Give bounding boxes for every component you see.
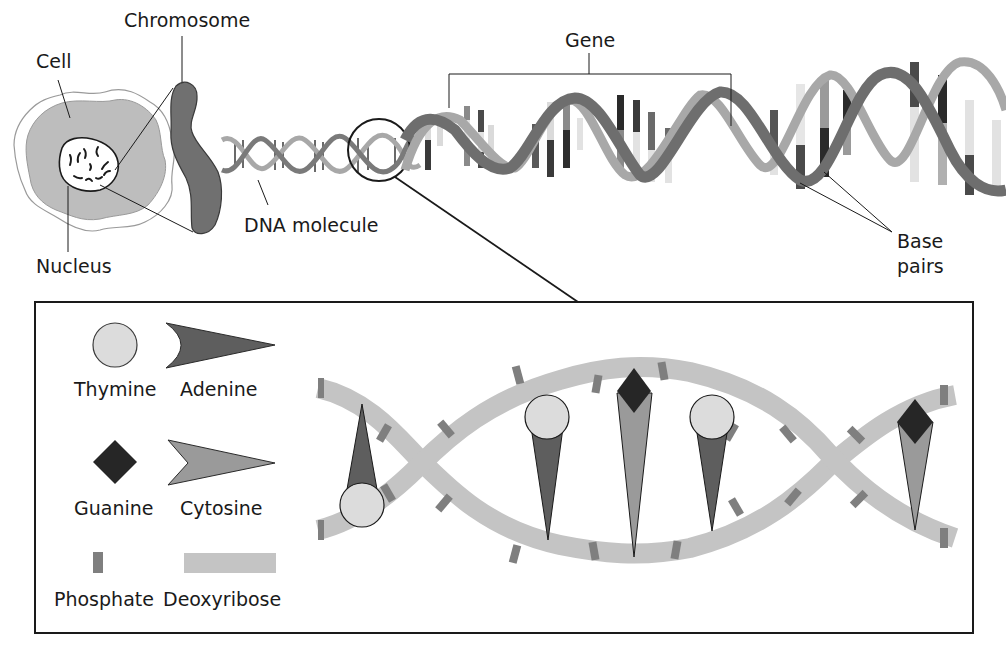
chromosome-shape — [171, 82, 222, 233]
detail-panel: Thymine Adenine Guanine Cytosine Phospha… — [35, 302, 973, 633]
zoom-callout-line — [395, 177, 578, 302]
chromosome-label: Chromosome — [124, 9, 250, 31]
legend-label-deoxyribose: Deoxyribose — [163, 588, 281, 610]
dna-molecule-small-helix — [222, 135, 420, 172]
thymine-icon — [690, 395, 734, 439]
base-pairs-label-line1: Base — [897, 230, 943, 252]
legend-label-cytosine: Cytosine — [180, 497, 263, 519]
legend-label-phosphate: Phosphate — [54, 588, 154, 610]
legend-label-thymine: Thymine — [73, 378, 156, 400]
thymine-icon — [340, 483, 384, 527]
thymine-icon — [525, 395, 569, 439]
gene-label: Gene — [565, 29, 615, 51]
base-pairs-label-line2: pairs — [897, 255, 944, 277]
nucleus-label: Nucleus — [36, 255, 112, 277]
deoxyribose-icon — [184, 553, 276, 573]
legend-label-adenine: Adenine — [180, 378, 257, 400]
legend-label-guanine: Guanine — [74, 497, 153, 519]
phosphate-icon — [93, 552, 103, 573]
dna-diagram: Cell Nucleus Chromosome DNA molecule — [0, 0, 1006, 649]
thymine-icon — [93, 323, 137, 367]
dna-molecule-large-helix — [405, 62, 1006, 195]
cell-illustration: Cell Nucleus — [14, 50, 174, 277]
cell-label: Cell — [36, 50, 72, 72]
dna-helix-overview: DNA molecule — [222, 29, 1006, 302]
dna-molecule-label: DNA molecule — [244, 214, 378, 236]
